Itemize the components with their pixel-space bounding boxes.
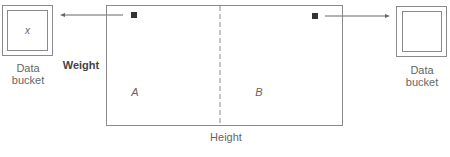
right-marker (312, 13, 318, 19)
left-marker (131, 12, 137, 18)
left-bucket-content: x (7, 25, 48, 37)
left-bucket-label-line2: bucket (0, 74, 56, 86)
height-label: Height (196, 131, 256, 143)
region-a-label: A (128, 86, 142, 98)
right-bucket-inner (402, 11, 442, 52)
region-b-label: B (252, 86, 266, 98)
right-bucket-label-line1: Data (394, 64, 450, 76)
main-rectangle (106, 5, 343, 126)
right-bucket-label-line2: bucket (394, 76, 450, 88)
left-bucket-label-line1: Data (0, 62, 56, 74)
weight-label: Weight (60, 59, 102, 71)
